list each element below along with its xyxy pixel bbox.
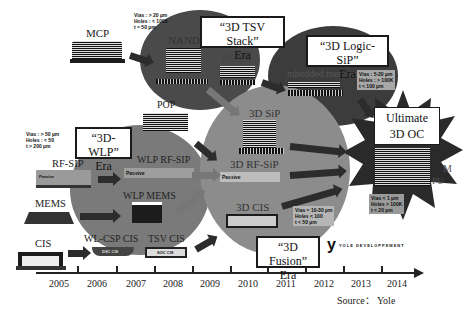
3d-cis-label: 3D CIS: [236, 201, 269, 213]
mcp-substrate: [70, 59, 125, 63]
arrow-cis-to-wl-csp: [68, 250, 84, 257]
3d-rf-sip-label: 3D RF-SiP: [230, 158, 279, 170]
yole-logo: y YOLE DEVELOPPEMENT: [327, 236, 405, 254]
embedded-memory-icon: [288, 82, 340, 88]
era-subtitle: 3D OC: [379, 126, 435, 142]
passive-tag: Passive: [39, 174, 54, 180]
passive-tag: Passive: [126, 170, 145, 176]
timeline-tick: [154, 266, 156, 272]
era-title: “3D-WLP”: [81, 131, 126, 159]
year-label: 2012: [314, 278, 334, 289]
era-subtitle: Era: [262, 268, 314, 282]
timeline-tick: [343, 266, 345, 272]
spec-line: t = 50 µm: [134, 24, 168, 30]
timeline-tick: [230, 266, 232, 272]
mcp-package-icon: [72, 41, 122, 59]
dram-stack-icon: [220, 66, 255, 78]
mems-label: MEMS: [35, 198, 66, 209]
spec-line: t < 50 µm: [295, 219, 332, 225]
rf-sip-label: RF-SIP: [52, 158, 84, 169]
dram-bumps: [220, 80, 255, 85]
timeline-tick: [116, 266, 118, 272]
year-label: 2008: [163, 278, 183, 289]
wl-csp-cis-icon: DSC CIS: [92, 247, 134, 256]
source-credit: Source： Yole: [337, 292, 395, 307]
era-subtitle: Era: [312, 67, 383, 81]
timeline-tick: [77, 266, 79, 272]
tsv-cis-icon: SOC CIS: [145, 247, 187, 258]
ultimate-specs: Vias < 1 µm Holes > 100K t < 20 µm: [369, 194, 404, 214]
nand-bumps: [156, 79, 208, 84]
year-label: 2006: [87, 278, 107, 289]
fragment-m-label: M: [443, 163, 452, 174]
mems-package-icon: [24, 212, 74, 224]
pop-label: POP: [157, 99, 175, 110]
wl-csp-cis-label: WL-CSP CIS: [84, 233, 138, 244]
soc-cis-tag: SOC CIS: [157, 250, 173, 256]
timeline-axis: [36, 272, 416, 274]
yole-logo-text: YOLE DEVELOPPEMENT: [339, 243, 405, 248]
arrow-mems-to-wlp-mems: [80, 213, 114, 220]
wlp-rf-sip-label: WLP RF-SIP: [137, 154, 190, 165]
timeline-tick: [192, 266, 194, 272]
wlp-mems-label: WLP MEMS: [123, 190, 176, 201]
logic-sip-era-label: “3D Logic-SiP” Era: [306, 35, 389, 67]
tsv-cis-label: TSV CIS: [148, 233, 185, 244]
wlp-rf-sip-icon: Passive: [124, 168, 194, 178]
era-title: Ultimate: [379, 110, 435, 126]
arrow-tsv-cis-to-fusion: [194, 237, 213, 252]
yole-logo-mark: y: [327, 236, 336, 254]
3d-sip-icon: [243, 120, 276, 148]
era-subtitle: Era: [206, 48, 279, 62]
dsc-cis-tag: DSC CIS: [102, 249, 118, 255]
arrow-rf-sip-to-wlp: [98, 176, 114, 183]
wlp-mems-icon: [132, 202, 162, 223]
ultimate-3d-oc-label: Ultimate 3D OC: [374, 107, 440, 145]
fusion-era-label: “3D Fusion” Era: [256, 236, 320, 268]
year-label: 2014: [387, 278, 407, 289]
mcp-label: MCP: [86, 27, 109, 39]
spec-line: t < 20 µm: [371, 207, 402, 213]
year-label: 2009: [200, 278, 220, 289]
year-label: 2005: [49, 278, 69, 289]
era-title: “3D Fusion”: [262, 240, 314, 268]
year-label: 2010: [238, 278, 258, 289]
spec-line: t < 100 µm: [359, 83, 393, 89]
ultimate-3d-oc-stack-icon: [375, 148, 430, 186]
timeline-arrowhead-icon: [414, 268, 424, 278]
cis-label: CIS: [35, 238, 51, 249]
era-title: “3D Logic-SiP”: [312, 39, 383, 67]
embedded-memory-bumps: [288, 90, 343, 96]
3d-sip-bumps: [239, 148, 284, 154]
year-label: 2007: [126, 278, 146, 289]
tsv-specs: Vias : > 20 µm Holes : < 1000 t = 50 µm: [134, 12, 168, 30]
3d-sip-label: 3D SiP: [249, 107, 281, 119]
3d-cis-icon: [226, 214, 278, 228]
cis-substrate: [16, 266, 66, 270]
timeline-tick: [381, 266, 383, 272]
wlp-era-label: “3D-WLP” Era: [75, 127, 132, 159]
passive-tag: Passive: [222, 174, 241, 180]
tsv-stack-era-label: “3D TSV Stack” Era: [200, 16, 285, 48]
fusion-specs: Vias = 10-30 µm Holes < 100 t < 50 µm: [293, 206, 334, 226]
arrow-wlp-to-fusion: [192, 172, 214, 179]
3d-rf-sip-icon: Passive: [220, 172, 280, 182]
era-subtitle: Era: [81, 159, 126, 173]
nand-label: NAND: [168, 34, 200, 46]
nand-stack-icon: [166, 48, 201, 73]
year-label: 2013: [351, 278, 371, 289]
wlp-specs: Vias : > 50 µm Holes : < 50 t > 200 µm: [26, 131, 59, 149]
fragment-pu-label: PU: [432, 176, 444, 186]
pop-package-icon: [143, 113, 188, 131]
era-title: “3D TSV Stack”: [206, 20, 279, 48]
spec-line: t > 200 µm: [26, 143, 59, 149]
